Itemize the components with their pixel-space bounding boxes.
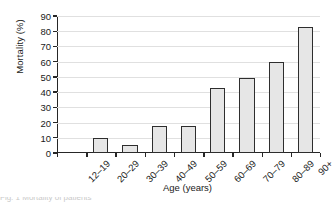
y-tick-label: 90	[40, 11, 51, 22]
y-tick-mark	[53, 137, 57, 138]
gridline	[57, 46, 320, 47]
x-tick-mark	[57, 153, 58, 157]
x-tick-label: 12–19	[85, 158, 111, 184]
x-axis-title: Age (years)	[0, 182, 331, 193]
bar	[122, 145, 137, 153]
x-tick-mark	[174, 153, 175, 157]
y-tick-mark	[53, 107, 57, 108]
y-tick-mark	[53, 61, 57, 62]
y-tick-mark	[53, 15, 57, 16]
x-tick-mark	[232, 153, 233, 157]
x-tick-mark	[145, 153, 146, 157]
gridline	[57, 16, 320, 17]
y-tick-mark	[53, 122, 57, 123]
y-tick-mark	[53, 91, 57, 92]
x-tick-label: 80–89	[290, 158, 316, 184]
y-tick-label: 40	[40, 87, 51, 98]
y-tick-label: 80	[40, 26, 51, 37]
x-tick-mark	[320, 153, 321, 157]
x-tick-label: 90+	[316, 158, 335, 177]
x-tick-label: 60–69	[231, 158, 257, 184]
y-tick-mark	[53, 46, 57, 47]
y-tick-label: 60	[40, 56, 51, 67]
x-tick-label: 50–59	[202, 158, 228, 184]
bar	[181, 126, 196, 153]
x-tick-mark	[203, 153, 204, 157]
y-tick-label: 10	[40, 132, 51, 143]
bar	[239, 78, 254, 153]
x-tick-label: 70–79	[261, 158, 287, 184]
x-tick-mark	[262, 153, 263, 157]
plot-area: 0102030405060708090	[57, 16, 320, 153]
bar	[269, 62, 284, 153]
x-tick-mark	[86, 153, 87, 157]
y-tick-mark	[53, 76, 57, 77]
y-tick-mark	[53, 31, 57, 32]
bar	[210, 88, 225, 153]
y-axis-title: Mortality (%)	[14, 0, 25, 107]
caption-text: Fig. 1 Mortality of patients	[0, 197, 331, 202]
bar	[298, 27, 313, 153]
x-tick-label: 40–49	[173, 158, 199, 184]
y-tick-label: 20	[40, 117, 51, 128]
bar	[152, 126, 167, 153]
y-tick-label: 70	[40, 41, 51, 52]
y-tick-label: 30	[40, 102, 51, 113]
y-tick-label: 0	[46, 148, 51, 159]
x-tick-mark	[291, 153, 292, 157]
x-tick-label: 20–29	[115, 158, 141, 184]
gridline	[57, 31, 320, 32]
x-tick-label: 30–39	[144, 158, 170, 184]
figure-caption-cropped: Fig. 1 Mortality of patients	[0, 197, 331, 205]
bar	[93, 138, 108, 153]
x-tick-mark	[115, 153, 116, 157]
y-tick-label: 50	[40, 71, 51, 82]
